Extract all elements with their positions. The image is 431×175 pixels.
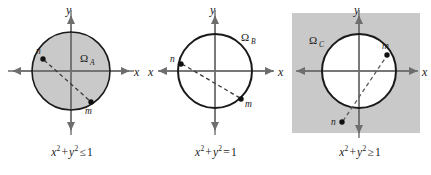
x-axis-label: x (421, 65, 428, 79)
region-label-omega: Ω (309, 34, 317, 46)
point-n-label: n (170, 54, 175, 64)
caption-a-rhs: 1 (87, 146, 93, 158)
figure-container: n m y x Ω A x2+y2≤1 (0, 0, 431, 175)
point-m-label: m (85, 106, 92, 116)
panel-omega-a: n m y x Ω A x2+y2≤1 (0, 0, 144, 175)
y-axis-label: y (353, 3, 360, 17)
y-axis-label: y (209, 3, 216, 17)
shaded-exterior-region (292, 13, 420, 133)
point-m-marker (88, 99, 93, 104)
region-label-subscript: A (89, 58, 95, 67)
caption-omega-b: x2+y2=1 (144, 146, 288, 158)
caption-omega-a: x2+y2≤1 (0, 146, 144, 158)
region-label-subscript: B (251, 37, 256, 46)
connector-n-to-m (182, 64, 240, 98)
point-m-label: m (382, 41, 389, 51)
caption-b-plus: + (204, 146, 213, 158)
panel-omega-b: n m y x x Ω B x2+y2=1 (144, 0, 288, 175)
caption-b-rhs: 1 (231, 146, 237, 158)
panel-omega-c: m n y x Ω C x2+y2≥1 (288, 0, 431, 175)
x-axis-label-left: x (147, 65, 154, 79)
y-axis-label: y (65, 3, 72, 17)
x-axis-label: x (133, 65, 140, 79)
caption-c-relation: ≥ (366, 146, 375, 158)
point-m-label: m (245, 99, 252, 109)
point-m-marker (238, 96, 243, 101)
point-n-marker (40, 56, 45, 61)
point-n-marker (178, 61, 183, 66)
point-m-marker (384, 52, 389, 57)
caption-b-relation: = (222, 146, 231, 158)
panel-c-diagram: m n y x Ω C (288, 0, 431, 145)
caption-c-plus: + (348, 146, 357, 158)
caption-c-rhs: 1 (375, 146, 381, 158)
caption-omega-c: x2+y2≥1 (288, 146, 431, 158)
point-n-label: n (36, 46, 41, 56)
caption-a-plus: + (60, 146, 69, 158)
point-n-marker (339, 119, 344, 124)
x-axis-label: x (277, 65, 284, 79)
point-n-label: n (331, 117, 336, 127)
panel-b-diagram: n m y x x Ω B (144, 0, 288, 145)
region-label-omega: Ω (241, 31, 249, 43)
region-label-omega: Ω (80, 52, 88, 64)
panel-a-diagram: n m y x Ω A (0, 0, 144, 145)
caption-a-relation: ≤ (78, 146, 87, 158)
